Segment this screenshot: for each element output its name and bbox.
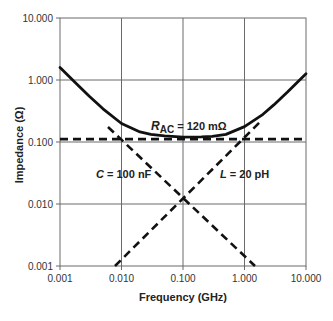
- rac-sub: AC: [160, 124, 174, 135]
- y-tick: 0.010: [28, 199, 53, 210]
- x-tick: 10.000: [291, 273, 322, 284]
- rac-annotation: RAC = 120 mΩ: [151, 119, 227, 135]
- x-tick: 0.010: [109, 273, 134, 284]
- rac-var: R: [151, 119, 160, 133]
- capacitor-line: [108, 127, 255, 266]
- x-tick: 1.000: [232, 273, 257, 284]
- y-tick-labels: 10.000 1.000 0.100 0.010 0.001: [22, 13, 53, 272]
- y-tick: 0.001: [28, 261, 53, 272]
- impedance-chart: 10.000 1.000 0.100 0.010 0.001 0.001 0.0…: [0, 0, 333, 321]
- y-tick: 1.000: [28, 75, 53, 86]
- l-value: = 20 pH: [227, 168, 270, 180]
- x-axis-title: Frequency (GHz): [139, 291, 227, 303]
- x-tick: 0.100: [170, 273, 195, 284]
- capacitor-annotation: C = 100 nF: [96, 168, 152, 180]
- tick-marks: [56, 18, 306, 270]
- y-axis-title: Impedance (Ω): [13, 106, 25, 183]
- grid: [60, 18, 306, 266]
- rac-value: = 120 mΩ: [174, 120, 227, 132]
- inductor-annotation: L = 20 pH: [220, 168, 269, 180]
- x-tick-labels: 0.001 0.010 0.100 1.000 10.000: [47, 273, 321, 284]
- y-tick: 10.000: [22, 13, 53, 24]
- c-value: = 100 nF: [104, 168, 152, 180]
- y-tick: 0.100: [28, 137, 53, 148]
- x-tick: 0.001: [47, 273, 72, 284]
